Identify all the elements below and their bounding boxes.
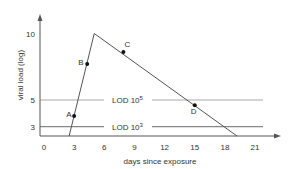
data-point-b: [85, 62, 89, 66]
viral-load-line: [69, 34, 237, 137]
axes: [38, 14, 282, 139]
y-tick-label: 10: [26, 30, 35, 39]
x-tick-labels: 036912151821: [42, 143, 260, 152]
lod-label: LOD 105: [112, 95, 144, 105]
lod-label: LOD 103: [112, 122, 144, 132]
data-point-c: [121, 50, 125, 54]
viral-load-chart: LOD 105LOD 103 036912151821 3510 days si…: [0, 0, 304, 169]
x-tick-label: 3: [72, 143, 77, 152]
y-tick-labels: 3510: [26, 30, 35, 132]
y-tick-label: 5: [31, 96, 36, 105]
data-points: ABCD: [66, 40, 197, 119]
point-label-c: C: [124, 40, 130, 49]
viral-load-series: [69, 34, 237, 137]
x-axis-arrow-icon: [274, 134, 281, 139]
x-tick-label: 12: [160, 143, 169, 152]
x-tick-label: 15: [190, 143, 199, 152]
x-tick-label: 21: [251, 143, 260, 152]
point-label-a: A: [66, 110, 72, 119]
point-label-b: B: [78, 58, 83, 67]
x-axis-label: days since exposure: [124, 157, 197, 166]
lod-lines: LOD 105LOD 103: [40, 95, 263, 132]
data-point-a: [72, 114, 76, 118]
y-tick-label: 3: [31, 123, 36, 132]
x-tick-label: 6: [102, 143, 107, 152]
y-axis-label: viral load (log): [16, 50, 25, 101]
x-tick-label: 18: [220, 143, 229, 152]
chart-svg: LOD 105LOD 103 036912151821 3510 days si…: [0, 0, 304, 169]
x-tick-label: 9: [132, 143, 137, 152]
x-tick-label: 0: [42, 143, 47, 152]
y-axis-arrow-icon: [38, 14, 43, 21]
point-label-d: D: [191, 107, 197, 116]
